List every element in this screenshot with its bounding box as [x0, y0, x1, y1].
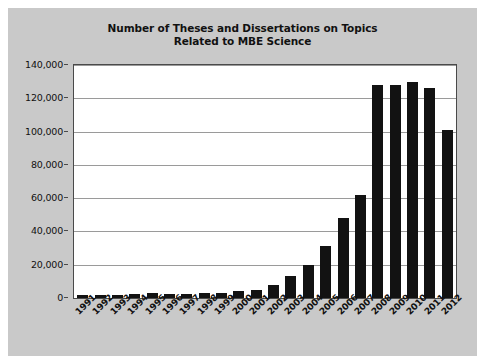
x-axis-tick-label: 2012 — [443, 299, 454, 351]
x-axis-tick-label: 1998 — [198, 299, 209, 351]
y-axis-tick-label: 80,000 — [31, 158, 63, 169]
y-axis-tick-mark — [64, 297, 68, 298]
x-axis-tick-label: 2008 — [373, 299, 384, 351]
y-axis-tick-label: 20,000 — [31, 258, 63, 269]
x-axis-tick-label: 2009 — [390, 299, 401, 351]
y-axis-tick-mark — [64, 164, 68, 165]
x-axis-tick-label: 2007 — [355, 299, 366, 351]
x-axis-tick-label: 2000 — [233, 299, 244, 351]
x-axis-tick-label: 1997 — [181, 299, 192, 351]
bar — [285, 276, 296, 298]
y-axis-tick-mark — [64, 230, 68, 231]
bar — [355, 195, 366, 298]
x-axis-tick-label: 1996 — [163, 299, 174, 351]
y-axis: 020,00040,00060,00080,000100,000120,0001… — [8, 64, 68, 297]
y-axis-tick-mark — [64, 97, 68, 98]
bar — [424, 88, 435, 298]
x-axis-tick-label: 2003 — [286, 299, 297, 351]
y-axis-tick-label: 100,000 — [25, 125, 63, 136]
bar — [390, 85, 401, 298]
x-axis-tick-label: 1992 — [94, 299, 105, 351]
x-axis-tick-label: 1994 — [129, 299, 140, 351]
chart-container: Number of Theses and Dissertations on To… — [8, 8, 477, 356]
plot-area — [73, 64, 457, 299]
chart-title-line-1: Number of Theses and Dissertations on To… — [8, 22, 477, 35]
y-axis-tick-mark — [64, 197, 68, 198]
x-axis-tick-label: 2001 — [251, 299, 262, 351]
x-axis-tick-label: 2010 — [408, 299, 419, 351]
y-axis-tick-mark — [64, 131, 68, 132]
x-axis-tick-label: 2005 — [321, 299, 332, 351]
x-axis-tick-label: 2011 — [425, 299, 436, 351]
chart-title: Number of Theses and Dissertations on To… — [8, 22, 477, 48]
x-axis-tick-label: 1991 — [76, 299, 87, 351]
bar-series — [74, 65, 456, 298]
y-axis-tick-mark — [64, 64, 68, 65]
y-axis-tick-label: 40,000 — [31, 225, 63, 236]
y-axis-tick-label: 140,000 — [25, 59, 63, 70]
x-axis-tick-label: 2006 — [338, 299, 349, 351]
bar — [372, 85, 383, 298]
chart-title-line-2: Related to MBE Science — [8, 35, 477, 48]
x-axis-tick-label: 1995 — [146, 299, 157, 351]
bar — [338, 218, 349, 298]
x-axis: 1991199219931994199519961997199819992000… — [73, 299, 457, 351]
x-axis-tick-label: 1993 — [111, 299, 122, 351]
x-axis-tick-label: 1999 — [216, 299, 227, 351]
x-axis-tick-label: 2002 — [268, 299, 279, 351]
y-axis-tick-label: 0 — [57, 292, 63, 303]
bar — [442, 130, 453, 298]
y-axis-tick-label: 120,000 — [25, 92, 63, 103]
y-axis-tick-mark — [64, 264, 68, 265]
bar — [320, 246, 331, 298]
bar — [407, 82, 418, 298]
bar — [303, 265, 314, 298]
x-axis-tick-label: 2004 — [303, 299, 314, 351]
y-axis-tick-label: 60,000 — [31, 192, 63, 203]
